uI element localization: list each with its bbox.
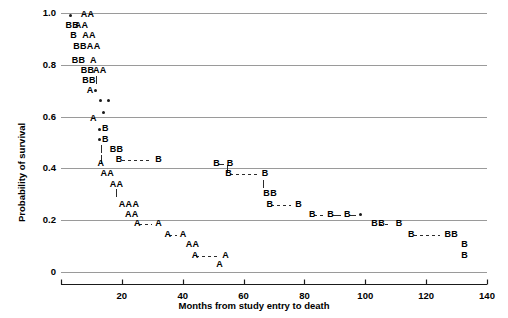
x-tick-label-1: 40 <box>169 290 197 301</box>
data-mark-B-1-6: B <box>102 124 109 133</box>
connector-vertical-1 <box>101 145 102 153</box>
data-mark-B-1-4: BB <box>81 66 95 75</box>
data-mark-B-1-21: BB <box>371 219 385 228</box>
x-tick-label-0: 20 <box>108 290 136 301</box>
x-tick-label-4: 100 <box>351 290 379 301</box>
data-mark-A-0-0: AA <box>81 10 95 19</box>
data-mark-B-1-18: B <box>309 210 316 219</box>
data-mark-dot-2-6 <box>98 138 101 141</box>
data-mark-B-1-7: B <box>102 135 109 144</box>
data-mark-B-1-10: B <box>155 155 162 164</box>
data-mark-A-0-14: A <box>155 219 162 228</box>
y-tick-label-2: 0.6 <box>28 111 56 122</box>
x-tick-label-2: 60 <box>230 290 258 301</box>
connector-dash-5 <box>414 235 440 236</box>
data-mark-B-1-12: B <box>227 159 234 168</box>
y-tick-label-1: 0.8 <box>28 59 56 70</box>
connector-dash-0 <box>122 160 152 161</box>
data-mark-B-1-3: BB <box>72 56 86 65</box>
data-mark-A-0-16: A <box>180 230 187 239</box>
data-mark-A-0-3: AA <box>87 42 101 51</box>
y-tick-label-5: 0 <box>28 266 56 277</box>
data-mark-A-0-4: A <box>90 56 97 65</box>
data-mark-B-1-2: BB <box>73 42 87 51</box>
data-mark-B-1-8: BB <box>110 145 124 154</box>
connector-dash-8 <box>196 256 217 257</box>
data-mark-B-1-24: BB <box>444 230 458 239</box>
data-mark-B-1-0: BB <box>66 21 80 30</box>
data-mark-dot-2-5 <box>98 128 101 131</box>
data-mark-B-1-19: B <box>327 210 334 219</box>
data-mark-A-0-10: AA <box>110 180 124 189</box>
connector-vertical-3 <box>263 180 264 188</box>
connector-dash-1 <box>230 174 257 175</box>
data-mark-B-1-14: B <box>262 169 269 178</box>
data-mark-B-1-13: B <box>225 169 232 178</box>
data-mark-A-0-11: AAA <box>119 200 139 209</box>
data-mark-B-1-5: BB <box>82 76 96 85</box>
data-mark-A-0-13: A <box>134 219 141 228</box>
x-axis-title: Months from study entry to death <box>0 300 508 311</box>
data-mark-A-0-19: A <box>222 251 229 260</box>
data-mark-B-1-1: B <box>70 31 77 40</box>
connector-vertical-4 <box>116 189 117 197</box>
y-tick-label-4: 0.2 <box>28 214 56 225</box>
data-mark-B-1-15: BB <box>263 189 277 198</box>
y-axis-title: Probability of survival <box>16 123 27 222</box>
data-mark-A-0-8: A <box>98 159 105 168</box>
connector-vertical-0 <box>96 76 97 84</box>
data-mark-A-0-17: AA <box>186 240 200 249</box>
data-mark-A-0-7: A <box>90 114 97 123</box>
data-mark-B-1-17: B <box>295 200 302 209</box>
x-tick-label-5: 120 <box>412 290 440 301</box>
x-tick-label-6: 140 <box>473 290 501 301</box>
data-mark-B-1-23: B <box>408 230 415 239</box>
data-mark-A-0-18: A <box>192 251 199 260</box>
data-mark-dot-2-0 <box>69 14 72 17</box>
data-mark-B-1-20: B <box>344 210 351 219</box>
survival-chart: 1.00.80.60.40.2020406080100120140AAAAAAA… <box>0 0 508 318</box>
data-mark-A-0-2: AA <box>82 31 96 40</box>
data-mark-A-0-5: AA <box>93 66 107 75</box>
data-mark-A-0-15: A <box>164 230 171 239</box>
data-mark-A-0-9: AA <box>101 169 115 178</box>
data-mark-B-1-22: B <box>396 219 403 228</box>
data-mark-B-1-9: B <box>116 155 123 164</box>
data-mark-B-1-11: B <box>213 159 220 168</box>
data-mark-A-0-6: A <box>87 86 94 95</box>
data-mark-B-1-16: B <box>266 200 273 209</box>
y-tick-label-3: 0.4 <box>28 162 56 173</box>
x-tick-label-3: 80 <box>290 290 318 301</box>
data-mark-B-1-26: B <box>461 251 468 260</box>
data-mark-B-1-25: B <box>461 240 468 249</box>
connector-dash-2 <box>271 205 291 206</box>
y-tick-label-0: 1.0 <box>28 7 56 18</box>
data-mark-A-0-20: A <box>216 260 223 269</box>
